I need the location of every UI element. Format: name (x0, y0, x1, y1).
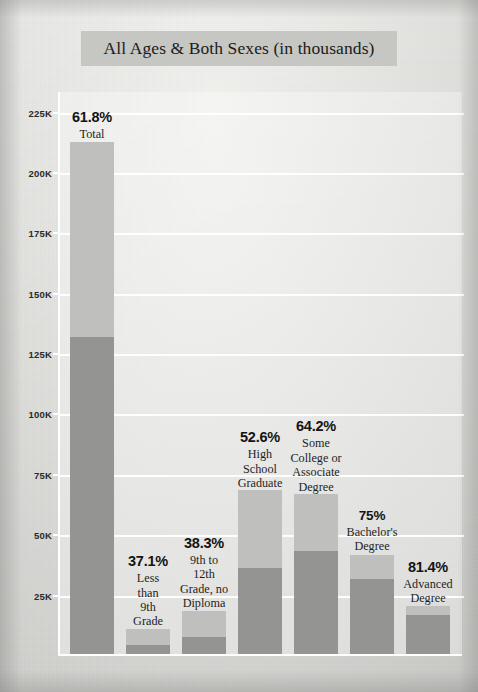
bar-category-label: Bachelor's (330, 525, 414, 539)
y-axis-tick-label: 200K (28, 167, 52, 178)
bar-category-label: Degree (274, 480, 358, 494)
bar-label-5: 64.2%SomeCollege orAssociateDegree (274, 418, 358, 494)
gridline (60, 294, 464, 296)
chart-title-banner: All Ages & Both Sexes (in thousands) (81, 31, 397, 66)
bar-2[interactable] (126, 629, 170, 654)
bar-segment-did-not-vote (126, 629, 170, 645)
bar-7[interactable] (406, 606, 450, 654)
y-axis-tick-mark (53, 413, 60, 415)
chart-page: All Ages & Both Sexes (in thousands) 225… (0, 0, 478, 692)
bar-category-label: Grade, no (162, 582, 246, 596)
bar-label-3: 38.3%9th to12thGrade, noDiploma (162, 535, 246, 611)
y-axis-tick-mark (53, 353, 60, 355)
y-axis-tick-mark (53, 474, 60, 476)
bar-category-label: Degree (386, 591, 470, 605)
bar-category-label: Degree (330, 539, 414, 553)
bar-category-label: Associate (274, 465, 358, 479)
bar-label-6: 75%Bachelor'sDegree (330, 508, 414, 554)
bar-category-label: Grade (106, 614, 190, 628)
y-axis-tick-label: 225K (28, 107, 52, 118)
y-axis-tick-label: 150K (28, 288, 52, 299)
gridline (60, 233, 464, 235)
gridline (60, 173, 464, 175)
bar-label-7: 81.4%AdvancedDegree (386, 559, 470, 606)
bar-percent-value: 75% (330, 508, 414, 524)
bar-label-1: 61.8%Total (50, 109, 134, 142)
bar-percent-value: 38.3% (162, 535, 246, 552)
y-axis-tick-label: 175K (28, 228, 52, 239)
bar-category-label: Advanced (386, 577, 470, 591)
y-axis-tick-mark (53, 293, 60, 295)
bar-percent-value: 81.4% (386, 559, 470, 576)
bar-category-label: Diploma (162, 596, 246, 610)
bar-segment-voted (182, 637, 226, 654)
bar-category-label: 12th (162, 567, 246, 581)
bar-category-label: Total (50, 127, 134, 141)
bar-category-label: College or (274, 451, 358, 465)
y-axis-tick-mark (53, 172, 60, 174)
bar-segment-did-not-vote (70, 142, 114, 338)
y-axis-tick-mark (53, 534, 60, 536)
y-axis-tick-label: 25K (34, 590, 52, 601)
bar-category-label: 9th to (162, 553, 246, 567)
bar-segment-did-not-vote (406, 606, 450, 615)
y-axis-tick-label: 75K (34, 469, 52, 480)
gridline (60, 354, 464, 356)
bar-category-label: Some (274, 436, 358, 450)
bar-percent-value: 64.2% (274, 418, 358, 435)
bar-segment-voted (126, 645, 170, 654)
gridline (60, 414, 464, 416)
y-axis-tick-label: 50K (34, 530, 52, 541)
y-axis-tick-label: 100K (28, 409, 52, 420)
bar-percent-value: 61.8% (50, 109, 134, 126)
chart-plot-area: 225K200K175K150K125K100K75K50K25K 61.8%T… (58, 92, 462, 656)
y-axis-tick-mark (53, 595, 60, 597)
page-title: All Ages & Both Sexes (in thousands) (104, 38, 375, 59)
y-axis-tick-label: 125K (28, 349, 52, 360)
y-axis-tick-mark (53, 232, 60, 234)
bar-segment-voted (294, 551, 338, 654)
bar-segment-voted (406, 615, 450, 654)
